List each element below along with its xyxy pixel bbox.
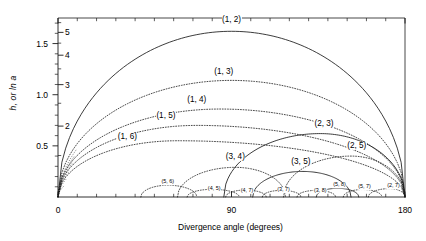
curve-label: (2, 5) [347, 142, 367, 150]
y-tick-label-outer: 1.0 [24, 90, 48, 100]
curve-label: (3, 7) [277, 188, 291, 193]
y-tick-label-outer: 0.5 [24, 141, 48, 151]
curve-label: (5, 8) [333, 183, 347, 188]
curve-label: (3, 8) [313, 188, 327, 193]
curve-2-7 [368, 189, 405, 197]
curve-5-6 [141, 185, 197, 197]
curve-label: (1, 4) [187, 96, 207, 104]
curve-label: (5, 7) [358, 185, 372, 190]
x-tick-label: 0 [56, 205, 61, 215]
y-tick-label-outer: 1.5 [24, 39, 48, 49]
curve-label: (5, 6) [161, 179, 175, 184]
y-tick-label-inner: 4 [65, 50, 77, 60]
plot-area [0, 0, 426, 241]
x-tick-label: 180 [398, 205, 412, 215]
y-tick-label-inner: 3 [65, 80, 77, 90]
chart-figure: h, or ln a Divergence angle (degrees) 09… [0, 0, 426, 241]
curve-label: (2, 3) [314, 120, 334, 128]
curve-label: (3, 5) [291, 158, 311, 166]
y-tick-label-inner: 2 [65, 121, 77, 131]
curve-label: (4, 7) [240, 188, 254, 193]
curve-label: (4, 5) [207, 187, 221, 192]
curve-label: (1, 2) [221, 16, 241, 24]
curve-label: (1, 6) [117, 133, 137, 141]
curve-label: (1, 3) [214, 68, 234, 76]
curve-label: (3, 4) [225, 153, 245, 161]
curve-label: (2, 7) [387, 184, 401, 189]
curve-label: (1, 5) [156, 112, 176, 120]
x-tick-label: 90 [227, 205, 236, 215]
y-tick-label-inner: 5 [65, 27, 77, 37]
